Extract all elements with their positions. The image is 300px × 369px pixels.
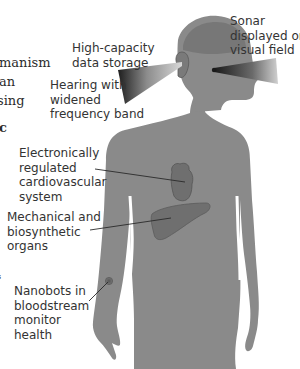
clipped-article-text: an — [0, 74, 15, 90]
label-data-storage: High-capacity data storage — [72, 41, 155, 70]
clipped-article-text: s — [0, 269, 1, 285]
clipped-article-heading: c — [0, 120, 7, 136]
clipped-article-text: sing — [0, 93, 25, 109]
clipped-article-text: manism — [0, 55, 51, 71]
augmented-human-diagram: manism an sing c s High-capacity data st… — [0, 0, 300, 369]
arm-gap-left — [130, 196, 132, 280]
eye-icon — [212, 68, 216, 72]
label-nanobots: Nanobots in bloodstream monitor health — [14, 284, 89, 342]
label-sonar: Sonar displayed on visual field — [230, 14, 300, 58]
label-cardiovascular: Electronically regulated cardiovascular … — [19, 146, 107, 204]
label-organs: Mechanical and biosynthetic organs — [7, 210, 101, 254]
label-hearing: Hearing with widened frequency band — [50, 78, 144, 122]
